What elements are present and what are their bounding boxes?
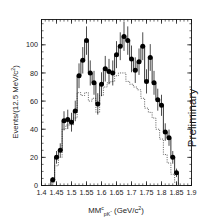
data-point-marker [152,80,157,85]
x-tick-label: 1.5 [67,188,77,197]
missing-mass-chart: 1.41.451.51.551.61.651.71.751.81.851.9 0… [0,0,214,223]
data-point-marker [167,135,172,140]
svg-text:MMcpK- (GeV/c2): MMcpK- (GeV/c2) [88,205,144,217]
x-axis-title-base: MM [88,206,101,215]
data-point-marker [174,170,179,175]
y-tick-label: 60 [30,97,38,106]
y-tick-label: 0 [34,181,38,190]
x-tick-label: 1.45 [50,188,64,197]
data-point-marker [92,80,97,85]
data-point-marker [144,79,149,84]
data-point-marker [114,52,119,57]
data-point-marker [118,44,123,49]
data-point-marker [95,101,100,106]
y-tick-label: 80 [30,69,38,78]
data-point-marker [170,155,175,160]
x-axis-tick-labels: 1.41.451.51.551.61.651.71.751.81.851.9 [37,188,197,197]
data-point-marker [77,73,82,78]
data-point-marker [129,56,134,61]
svg-text:Events/(12.5 MeV/c2): Events/(12.5 MeV/c2) [10,65,20,139]
data-point-marker [84,38,89,43]
y-tick-label: 20 [30,153,38,162]
data-point-marker [140,44,145,49]
data-point-marker [58,148,63,153]
preliminary-watermark: Preliminary [186,89,198,148]
x-tick-label: 1.7 [127,188,137,197]
y-axis-title-base: Events/(12.5 MeV/c [11,71,20,139]
data-point-marker [73,108,78,113]
data-point-marker [110,70,115,75]
x-tick-label: 1.65 [110,188,124,197]
y-axis-title: Events/(12.5 MeV/c2) [10,65,20,139]
x-tick-label: 1.6 [97,188,107,197]
data-point-marker [54,155,59,160]
data-point-marker [155,97,160,102]
data-point-marker [125,38,130,43]
y-tick-label: 100 [26,40,38,49]
x-tick-label: 1.85 [170,188,184,197]
y-tick-label: 40 [30,125,38,134]
y-axis-title-close: ) [11,65,20,68]
data-point-marker [159,103,164,108]
x-axis-title-units-close: ) [141,206,144,215]
x-axis-title-units: (GeV/c [114,206,138,215]
data-point-marker [80,58,85,63]
data-point-marker [122,34,127,39]
x-tick-label: 1.8 [157,188,167,197]
x-tick-label: 1.75 [140,188,154,197]
figure-container: 1.41.451.51.551.61.651.71.751.81.851.9 0… [0,0,214,223]
data-point-marker [50,177,55,182]
preliminary-label: Preliminary [186,89,198,148]
data-point-marker [148,55,153,60]
x-axis-title: MMcpK- (GeV/c2) [88,205,144,217]
data-point-marker [137,59,142,64]
x-tick-label: 1.9 [187,188,197,197]
data-point-marker [99,82,104,87]
data-point-marker [133,68,138,73]
x-tick-label: 1.55 [80,188,94,197]
data-point-marker [69,120,74,125]
data-point-marker [163,130,168,135]
data-point-marker [88,70,93,75]
